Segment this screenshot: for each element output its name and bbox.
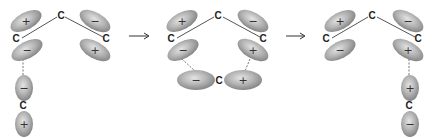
svg-text:−: − bbox=[191, 74, 200, 87]
svg-text:−: − bbox=[178, 44, 187, 57]
svg-text:−: − bbox=[403, 15, 412, 28]
svg-text:+: + bbox=[21, 15, 30, 28]
orbital-lobe-plus: + bbox=[321, 6, 359, 37]
svg-text:+: + bbox=[335, 15, 344, 28]
carbon-atom-label: C bbox=[215, 75, 222, 86]
svg-text:−: − bbox=[22, 44, 31, 57]
panel-1: + − − + − + C C C C bbox=[7, 5, 114, 137]
panel-3: + − − + + − C C C C bbox=[321, 5, 427, 137]
carbon-atom-label: C bbox=[102, 33, 109, 44]
svg-text:+: + bbox=[403, 44, 412, 57]
svg-text:+: + bbox=[19, 118, 28, 131]
svg-text:−: − bbox=[90, 15, 99, 28]
orbital-lobe-plus: + bbox=[163, 6, 201, 37]
svg-text:+: + bbox=[238, 74, 247, 87]
carbon-atom-label: C bbox=[414, 33, 421, 44]
orbital-lobe-plus: + bbox=[7, 6, 45, 37]
carbon-atom-label: C bbox=[405, 100, 412, 111]
orbital-lobe-minus: − bbox=[401, 111, 419, 137]
carbon-atom-label: C bbox=[214, 10, 221, 21]
orbital-lobe-plus: + bbox=[401, 75, 419, 101]
svg-text:+: + bbox=[405, 82, 414, 95]
svg-text:−: − bbox=[405, 118, 414, 131]
svg-text:+: + bbox=[90, 44, 99, 57]
orbital-interaction-diagram: + − − + − + C C C C bbox=[0, 0, 432, 138]
svg-text:+: + bbox=[177, 15, 186, 28]
orbital-lobe-plus: + bbox=[15, 111, 33, 137]
svg-text:−: − bbox=[248, 15, 257, 28]
carbon-atom-label: C bbox=[57, 10, 64, 21]
carbon-atom-label: C bbox=[167, 33, 174, 44]
carbon-atom-label: C bbox=[259, 33, 266, 44]
svg-text:+: + bbox=[248, 44, 257, 57]
reaction-arrow bbox=[129, 33, 149, 39]
svg-text:−: − bbox=[335, 44, 344, 57]
orbital-lobe-minus: − bbox=[15, 75, 33, 101]
carbon-atom-label: C bbox=[368, 10, 375, 21]
carbon-atom-label: C bbox=[322, 33, 329, 44]
dashed-interaction-line bbox=[182, 59, 195, 71]
dashed-interaction-line bbox=[245, 59, 250, 71]
orbital-lobe-minus: − bbox=[177, 70, 215, 90]
svg-text:−: − bbox=[19, 82, 28, 95]
carbon-atom-label: C bbox=[12, 33, 19, 44]
carbon-atom-label: C bbox=[19, 100, 26, 111]
orbital-lobe-plus: + bbox=[224, 70, 262, 90]
panel-2: + − − + − + C C C C bbox=[163, 5, 272, 90]
reaction-arrow bbox=[286, 33, 305, 39]
